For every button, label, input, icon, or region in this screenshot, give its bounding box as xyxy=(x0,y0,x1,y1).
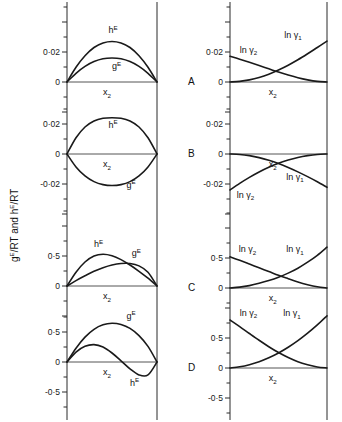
y-tick-label: 0·02 xyxy=(43,47,60,57)
curve-label-lngamma2: ln γ2 xyxy=(239,244,257,256)
panel-b-left-plot: -0·0200·02x2hEgE xyxy=(40,109,157,214)
y-tick-label: -0·5 xyxy=(45,387,60,397)
panel-d: D-0·500·5x2gEhE-0·500·5x2ln γ2ln γ1 xyxy=(45,308,327,413)
curve-he xyxy=(67,254,157,286)
y-tick-label: 0·02 xyxy=(43,119,60,129)
panel-d-right-plot: -0·500·5x2ln γ2ln γ1 xyxy=(208,308,327,413)
curve-label-ge: gE xyxy=(126,178,135,190)
y-axis-label-text: gE/RT and hE/RT xyxy=(8,189,20,262)
panel-b: B-0·0200·02x2hEgE-0·0200·02x2ln γ2ln γ1 xyxy=(40,109,327,214)
excess-properties-figure: gE/RT and hE/RTA00·02x2hEgE00·02x2ln γ2l… xyxy=(0,0,342,422)
y-tick-label: 0 xyxy=(55,281,60,291)
y-tick-label: 0 xyxy=(55,357,60,367)
panel-c-left-plot: 00·5x2hEgE xyxy=(48,211,157,316)
panel-d-left-plot: -0·500·5x2gEhE xyxy=(45,309,157,407)
panel-letter-d: D xyxy=(188,362,195,373)
curve-label-ge: gE xyxy=(112,60,121,72)
curve-he xyxy=(67,345,157,377)
x-axis-label: x2 xyxy=(269,373,278,385)
x-axis-label: x2 xyxy=(269,293,278,305)
curve-label-lngamma1: ln γ1 xyxy=(284,30,302,42)
y-tick-label: -0·02 xyxy=(40,179,60,189)
y-tick-label: 0·5 xyxy=(211,253,224,263)
y-tick-label: 0·5 xyxy=(211,333,224,343)
y-tick-label: 0 xyxy=(218,283,223,293)
y-tick-label: 0·5 xyxy=(48,251,61,261)
curve-label-ge: gE xyxy=(126,309,135,321)
curve-label-he: hE xyxy=(108,24,117,36)
panel-a-left-plot: 00·02x2hEgE xyxy=(43,7,157,112)
x-axis-label: x2 xyxy=(103,159,112,171)
y-tick-label: 0 xyxy=(55,77,60,87)
curve-label-lngamma2: ln γ2 xyxy=(240,308,258,320)
y-tick-label: 0·02 xyxy=(206,47,223,57)
panel-c-right-plot: 00·5x2ln γ2ln γ1 xyxy=(211,213,327,305)
panel-letter-b: B xyxy=(188,148,195,159)
curve-ge xyxy=(67,323,157,362)
curve-label-he: hE xyxy=(108,118,117,130)
curve-label-he: hE xyxy=(130,376,139,388)
y-tick-label: 0 xyxy=(218,363,223,373)
curve-label-lngamma1: ln γ1 xyxy=(286,244,304,256)
panel-letter-a: A xyxy=(188,76,195,87)
panel-a-right-plot: 00·02x2ln γ2ln γ1 xyxy=(206,7,327,112)
panel-c: C00·5x2hEgE00·5x2ln γ2ln γ1 xyxy=(48,211,327,316)
y-tick-label: -0·02 xyxy=(203,179,223,189)
curve-ln1 xyxy=(230,316,327,368)
curve-label-ge: gE xyxy=(132,247,141,259)
curve-label-he: hE xyxy=(94,238,103,250)
y-tick-label: 0 xyxy=(218,77,223,87)
curve-ln2 xyxy=(230,257,327,288)
y-tick-label: 0 xyxy=(218,149,223,159)
curve-ge xyxy=(67,154,157,186)
y-tick-label: 0·5 xyxy=(48,327,61,337)
x-axis-label: x2 xyxy=(269,87,278,99)
y-tick-label: -0·5 xyxy=(208,393,223,403)
figure-root: gE/RT and hE/RTA00·02x2hEgE00·02x2ln γ2l… xyxy=(0,0,342,422)
curve-ln2 xyxy=(230,56,327,82)
curve-ln2 xyxy=(230,154,327,190)
x-axis-label: x2 xyxy=(103,367,112,379)
y-axis-label: gE/RT and hE/RT xyxy=(8,189,20,262)
curve-ln2 xyxy=(230,320,327,368)
panel-letter-c: C xyxy=(188,282,195,293)
x-axis-label: x2 xyxy=(103,291,112,303)
curve-label-lngamma1: ln γ1 xyxy=(283,308,301,320)
y-tick-label: 0 xyxy=(55,149,60,159)
panel-a: A00·02x2hEgE00·02x2ln γ2ln γ1 xyxy=(43,7,327,112)
y-tick-label: 0·02 xyxy=(206,119,223,129)
x-axis-label: x2 xyxy=(103,87,112,99)
panel-b-right-plot: -0·0200·02x2ln γ2ln γ1 xyxy=(203,109,327,214)
curve-label-lngamma2: ln γ2 xyxy=(240,45,258,57)
curve-ln1 xyxy=(230,154,327,187)
curve-label-lngamma2: ln γ2 xyxy=(237,190,255,202)
